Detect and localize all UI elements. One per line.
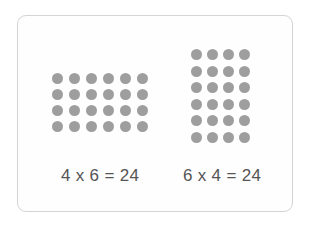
dot [223,66,234,77]
dot [120,89,131,100]
dot [137,73,148,84]
dot [223,115,234,126]
dot [239,132,250,143]
dot [52,121,63,132]
dot [191,99,202,110]
dot [103,105,114,116]
dot-array-6x4 [191,49,250,143]
dot [207,49,218,60]
dot [223,132,234,143]
dot [69,105,80,116]
dot [69,121,80,132]
dot [191,82,202,93]
dot [52,73,63,84]
dot [207,115,218,126]
dot [103,73,114,84]
dot [137,105,148,116]
dot [86,105,97,116]
equation-left: 4 x 6 = 24 [61,166,139,186]
dot [86,89,97,100]
dot [239,49,250,60]
dot [103,89,114,100]
dot [207,82,218,93]
dot [120,73,131,84]
dot [69,73,80,84]
dot [223,99,234,110]
dot [52,89,63,100]
dot [52,105,63,116]
dot [86,73,97,84]
dot [120,105,131,116]
dot [191,49,202,60]
dot [239,66,250,77]
dot [207,99,218,110]
dot [239,115,250,126]
dot [191,66,202,77]
dot [223,82,234,93]
dot [86,121,97,132]
dot [103,121,114,132]
dot-array-4x6 [52,73,148,132]
dot [191,132,202,143]
dot [223,49,234,60]
dot [137,121,148,132]
dot [120,121,131,132]
dot [207,66,218,77]
dot [191,115,202,126]
dot [239,82,250,93]
dot [137,89,148,100]
dot [207,132,218,143]
equation-right: 6 x 4 = 24 [183,166,261,186]
dot [69,89,80,100]
dot [239,99,250,110]
